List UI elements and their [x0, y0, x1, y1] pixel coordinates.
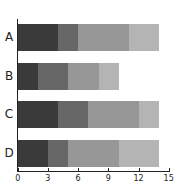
bar-segment-series-2	[48, 140, 68, 167]
bar-segment-series-3	[88, 101, 138, 128]
category-label-d: D	[4, 140, 14, 167]
bar-c	[18, 101, 159, 128]
category-label-c: C	[4, 101, 14, 128]
bar-b	[18, 63, 119, 90]
bar-segment-series-4	[129, 24, 159, 51]
x-tick	[18, 168, 19, 172]
x-tick-label: 15	[159, 174, 179, 183]
x-tick	[78, 168, 79, 172]
x-axis-line	[17, 171, 169, 172]
x-tick-label: 9	[98, 174, 118, 183]
bar-segment-series-4	[139, 101, 159, 128]
x-tick-label: 3	[38, 174, 58, 183]
bar-segment-series-1	[18, 140, 48, 167]
x-tick-label: 0	[8, 174, 28, 183]
bar-segment-series-2	[58, 24, 78, 51]
bar-segment-series-3	[78, 24, 128, 51]
x-tick-label: 6	[68, 174, 88, 183]
x-tick	[48, 168, 49, 172]
x-tick	[108, 168, 109, 172]
bar-a	[18, 24, 159, 51]
category-label-a: A	[4, 24, 14, 51]
bar-segment-series-1	[18, 63, 38, 90]
bar-segment-series-3	[68, 63, 98, 90]
bar-segment-series-1	[18, 24, 58, 51]
bar-segment-series-4	[99, 63, 119, 90]
stacked-bar-chart: A B C D 03691215	[0, 0, 179, 190]
x-tick-label: 12	[129, 174, 149, 183]
bar-segment-series-4	[119, 140, 159, 167]
x-tick	[169, 168, 170, 172]
category-label-b: B	[4, 63, 14, 90]
bar-segment-series-2	[38, 63, 68, 90]
bar-d	[18, 140, 159, 167]
bar-segment-series-3	[68, 140, 118, 167]
bar-segment-series-1	[18, 101, 58, 128]
bar-segment-series-2	[58, 101, 88, 128]
x-tick	[139, 168, 140, 172]
